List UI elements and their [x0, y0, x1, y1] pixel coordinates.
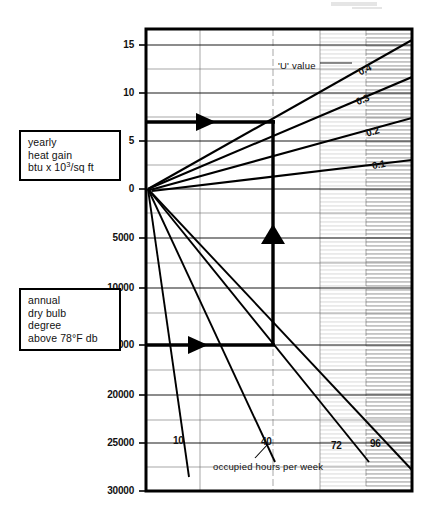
hours-label-96: 96	[370, 438, 381, 449]
y-tick-lower-20000: 20000	[79, 389, 134, 400]
legend-line-pre: btu x 10	[28, 161, 66, 173]
y-tick-lower-5000: 5000	[84, 232, 134, 243]
legend-box-degree-hours: annual dry bulb degree above 78°F db	[19, 288, 121, 351]
hours-label-10: 10	[173, 435, 184, 446]
legend-box-heat-gain: yearly heat gain btu x 103/sq ft	[19, 130, 121, 181]
hours-label-40: 40	[261, 436, 272, 447]
u-value-caption: 'U' value	[278, 60, 316, 71]
y-tick-upper-10: 10	[104, 87, 134, 98]
chart-figure: 15 10 5 0 5000 10000 15000 20000 25000 3…	[0, 0, 430, 519]
legend-line: above 78°F db	[28, 332, 113, 345]
legend-line: btu x 103/sq ft	[28, 161, 113, 174]
legend-line-post: /sq ft	[70, 161, 93, 173]
legend-line: heat gain	[28, 149, 113, 162]
y-tick-lower-25000: 25000	[79, 437, 134, 448]
legend-line: degree	[28, 319, 113, 332]
legend-line: annual	[28, 294, 113, 307]
legend-line: dry bulb	[28, 307, 113, 320]
hours-label-72: 72	[331, 440, 342, 451]
arrow-right-icon	[188, 336, 208, 354]
y-tick-lower-30000: 30000	[79, 485, 134, 496]
y-tick-upper-15: 15	[104, 39, 134, 50]
arrow-left-icon	[196, 113, 216, 131]
y-tick-upper-0: 0	[104, 183, 134, 194]
occupied-hours-caption: occupied hours per week	[213, 461, 323, 472]
legend-line: yearly	[28, 136, 113, 149]
arrow-up-icon	[261, 224, 285, 244]
nomogram-graphic	[0, 0, 430, 519]
